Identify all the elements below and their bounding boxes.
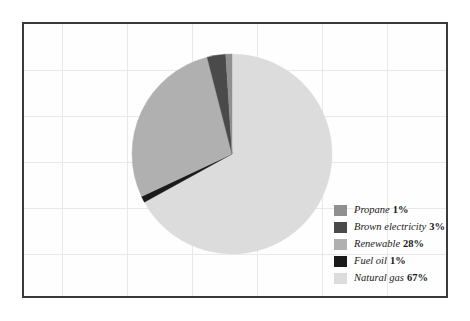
- legend-label: Renewable: [354, 238, 400, 249]
- legend-label: Brown electricity: [354, 221, 426, 232]
- legend-value: 3%: [429, 221, 445, 232]
- figure-canvas: Propane1%Brown electricity3%Renewable28%…: [0, 0, 470, 321]
- legend-item: Fuel oil1%: [334, 253, 444, 270]
- legend-item: Renewable28%: [334, 236, 444, 253]
- legend-text: Renewable28%: [354, 239, 424, 250]
- legend-text: Propane1%: [354, 205, 409, 216]
- legend-value: 67%: [407, 272, 428, 283]
- plot-frame: Propane1%Brown electricity3%Renewable28%…: [22, 22, 448, 298]
- legend-label: Natural gas: [354, 272, 404, 283]
- legend-value: 1%: [390, 255, 406, 266]
- legend-item: Brown electricity3%: [334, 219, 444, 236]
- legend-text: Natural gas67%: [354, 273, 428, 284]
- legend-swatch-propane: [334, 205, 347, 216]
- legend-item: Propane1%: [334, 202, 444, 219]
- legend-value: 28%: [403, 238, 424, 249]
- legend-item: Natural gas67%: [334, 270, 444, 287]
- legend-text: Brown electricity3%: [354, 222, 445, 233]
- legend-label: Fuel oil: [354, 255, 387, 266]
- legend-text: Fuel oil1%: [354, 256, 406, 267]
- chart-legend: Propane1%Brown electricity3%Renewable28%…: [334, 202, 444, 287]
- legend-value: 1%: [393, 204, 409, 215]
- legend-label: Propane: [354, 204, 390, 215]
- legend-swatch-fuel-oil: [334, 256, 347, 267]
- legend-swatch-natural-gas: [334, 273, 347, 284]
- legend-swatch-brown-electricity: [334, 222, 347, 233]
- legend-swatch-renewable: [334, 239, 347, 250]
